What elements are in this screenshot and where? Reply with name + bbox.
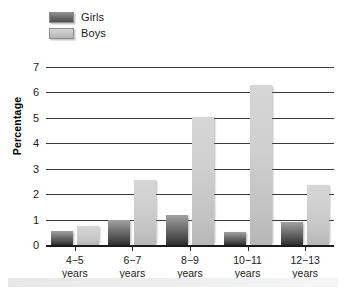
legend-item-boys: Boys: [49, 27, 106, 40]
bar-boys: [307, 185, 329, 245]
legend-item-girls: Girls: [49, 11, 106, 24]
y-tick-label: 6: [33, 86, 39, 98]
x-category-label: 6−7years: [120, 254, 146, 280]
bar-boys: [134, 180, 156, 245]
y-tick-label: 3: [33, 163, 39, 175]
bar-girls: [166, 215, 188, 246]
bar-chart-figure: Girls Boys Percentage 01234567 4−5years6…: [0, 0, 346, 289]
x-category-label: 4−5years: [62, 254, 88, 280]
y-tick-label: 7: [33, 61, 39, 73]
bar-boys: [192, 117, 214, 245]
bar-group: [104, 65, 162, 245]
legend-label-girls: Girls: [81, 12, 104, 23]
girls-swatch-icon: [49, 12, 74, 23]
boys-swatch-icon: [49, 28, 74, 39]
chart-legend: Girls Boys: [49, 11, 106, 40]
x-category-label: 8−9years: [177, 254, 203, 280]
x-tick-mark: [248, 247, 249, 251]
bar-group: [46, 65, 104, 245]
x-axis-line: [46, 245, 334, 247]
x-tick-mark: [75, 247, 76, 251]
y-tick-label: 2: [33, 188, 39, 200]
bar-girls: [108, 220, 130, 245]
bar-girls: [51, 231, 73, 245]
y-tick-label: 1: [33, 214, 39, 226]
y-axis-title: Percentage: [11, 81, 23, 171]
bar-group: [161, 65, 219, 245]
bar-group: [219, 65, 277, 245]
x-tick-mark: [132, 247, 133, 251]
x-tick-mark: [190, 247, 191, 251]
bar-boys: [250, 85, 272, 245]
x-category-label: 12−13years: [290, 254, 320, 280]
y-tick-label: 0: [33, 239, 39, 251]
plot-area: 01234567 4−5years6−7years8−9years10−11ye…: [46, 67, 334, 247]
y-tick-label: 4: [33, 137, 39, 149]
caption-strip: [8, 278, 338, 287]
y-tick-label: 5: [33, 112, 39, 124]
x-category-label: 10−11years: [233, 254, 262, 280]
bar-girls: [224, 232, 246, 245]
legend-label-boys: Boys: [81, 28, 106, 39]
bar-girls: [281, 222, 303, 245]
bar-group: [276, 65, 334, 245]
x-tick-mark: [305, 247, 306, 251]
bar-boys: [77, 226, 99, 245]
